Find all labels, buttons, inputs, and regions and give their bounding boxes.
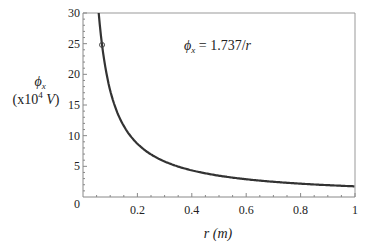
x-tick-labels: 0.20.40.60.81 — [130, 203, 358, 217]
x-tick-label: 0.2 — [130, 203, 145, 217]
x-axis-label: r (m) — [204, 226, 233, 242]
y-tick-label: 20 — [68, 67, 80, 81]
x-tick-label: 0.8 — [293, 203, 308, 217]
y-tick-labels: 51015202530 — [68, 6, 80, 173]
y-tick-label: 10 — [68, 129, 80, 143]
y-tick-label: 15 — [68, 98, 80, 112]
x-tick-label: 0.4 — [184, 203, 199, 217]
origin-label: 0 — [74, 197, 80, 211]
x-tick-label: 0.6 — [239, 203, 254, 217]
y-axis-label-symbol: ϕx — [34, 74, 45, 91]
y-tick-label: 5 — [74, 159, 80, 173]
x-tick-label: 1 — [352, 203, 358, 217]
chart: 0.20.40.60.81 51015202530 0 ϕx = 1.737/r… — [0, 0, 373, 249]
y-tick-label: 25 — [68, 37, 80, 51]
y-axis-label-unit: (x104 V) — [13, 90, 60, 108]
y-tick-label: 30 — [68, 6, 80, 20]
curve-annotation: ϕx = 1.737/r — [184, 38, 252, 55]
